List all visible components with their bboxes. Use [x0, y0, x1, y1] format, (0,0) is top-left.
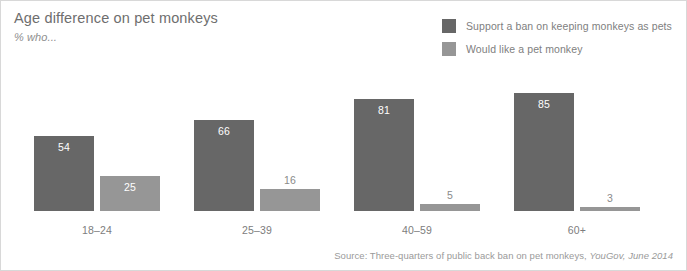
bar-support-ban: 54	[34, 136, 94, 211]
source-note: Source: Three-quarters of public back ba…	[334, 250, 673, 261]
bar-support-ban: 81	[354, 99, 414, 211]
bar-value-label: 5	[420, 189, 480, 201]
bar-value-label: 54	[34, 141, 94, 153]
bar-would-like-pet	[580, 207, 640, 211]
plot-area: 542518–24661625–3981540–5985360+	[1, 1, 687, 271]
source-attribution: YouGov, June 2014	[589, 250, 673, 261]
bar-value-label: 81	[354, 104, 414, 116]
bar-would-like-pet	[420, 204, 480, 211]
source-prefix: Source: Three-quarters of public back ba…	[334, 250, 589, 261]
bar-value-label: 66	[194, 125, 254, 137]
x-axis-tick-label: 25–39	[194, 224, 320, 236]
bar-would-like-pet	[260, 189, 320, 211]
chart-figure: Age difference on pet monkeys % who... S…	[0, 0, 687, 271]
x-axis-tick-label: 60+	[514, 224, 640, 236]
x-axis-tick-label: 40–59	[354, 224, 480, 236]
bar-value-label: 3	[580, 192, 640, 204]
x-axis-tick-label: 18–24	[34, 224, 160, 236]
bar-would-like-pet: 25	[100, 176, 160, 211]
bar-support-ban: 85	[514, 93, 574, 211]
bar-support-ban: 66	[194, 120, 254, 211]
bar-value-label: 16	[260, 174, 320, 186]
bar-value-label: 25	[100, 181, 160, 193]
bar-value-label: 85	[514, 98, 574, 110]
